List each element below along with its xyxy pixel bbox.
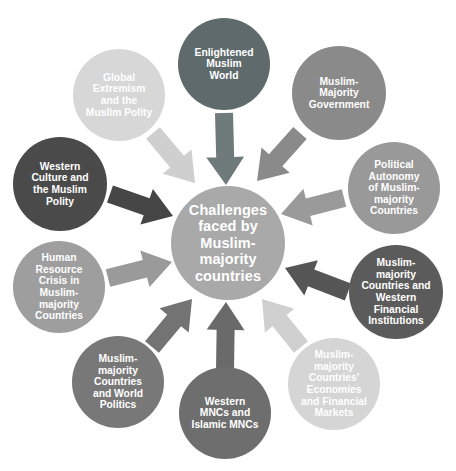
arrow-global-extremism xyxy=(146,127,195,183)
satellite-node-human-resource-crisis: Human Resource Crisis in Muslim- majorit… xyxy=(13,241,105,333)
arrow-countries-world-politics xyxy=(145,299,192,353)
satellite-node-label: Political Autonomy of Muslim- majority C… xyxy=(348,159,440,217)
satellite-node-western-financial-institutions: Muslim- majority Countries and Western F… xyxy=(349,245,443,339)
satellite-node-label: Western MNCs and Islamic MNCs xyxy=(179,396,271,431)
arrow-enlightened-muslim-world xyxy=(206,113,244,185)
satellite-node-label: Muslim- majority Countries and World Pol… xyxy=(72,353,164,411)
satellite-node-political-autonomy: Political Autonomy of Muslim- majority C… xyxy=(348,142,440,234)
satellite-node-label: Global Extremism and the Muslim Polity xyxy=(73,72,165,119)
arrow-western-culture-muslim-polity xyxy=(107,186,173,225)
hub-node-label: Challenges faced by Muslim- majority cou… xyxy=(171,202,285,284)
satellite-node-label: Muslim- majority Countries' Economies an… xyxy=(288,349,380,419)
satellite-node-label: Human Resource Crisis in Muslim- majorit… xyxy=(13,252,105,322)
satellite-node-label: Enlightened Muslim World xyxy=(178,47,270,82)
arrow-political-autonomy xyxy=(281,189,346,226)
satellite-node-label: Western Culture and the Muslim Polity xyxy=(13,161,107,208)
arrow-muslim-majority-government xyxy=(257,127,307,181)
satellite-node-global-extremism: Global Extremism and the Muslim Polity xyxy=(73,49,165,141)
satellite-node-label: Muslim- majority Countries and Western F… xyxy=(349,257,443,327)
satellite-node-enlightened-muslim-world: Enlightened Muslim World xyxy=(178,18,270,110)
satellite-node-western-culture-muslim-polity: Western Culture and the Muslim Polity xyxy=(13,137,107,231)
satellite-node-label: Muslim- Majority Government xyxy=(292,76,386,111)
satellite-node-countries-world-politics: Muslim- majority Countries and World Pol… xyxy=(72,336,164,428)
satellite-node-muslim-majority-government: Muslim- Majority Government xyxy=(292,46,386,140)
satellite-node-western-mncs-islamic-mncs: Western MNCs and Islamic MNCs xyxy=(179,367,271,459)
arrow-human-resource-crisis xyxy=(106,250,172,287)
arrow-economies-financial-markets xyxy=(262,299,308,353)
satellite-node-economies-financial-markets: Muslim- majority Countries' Economies an… xyxy=(288,338,380,430)
arrow-western-financial-institutions xyxy=(285,260,351,300)
diagram-canvas: Challenges faced by Muslim- majority cou… xyxy=(0,0,456,471)
arrow-western-mncs-islamic-mncs xyxy=(207,302,245,371)
hub-node-challenges: Challenges faced by Muslim- majority cou… xyxy=(171,186,285,300)
